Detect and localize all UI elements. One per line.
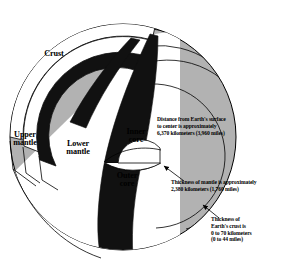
annotation-crust-thickness: Thickness of Earth's crust is 0 to 70 ki… (211, 216, 285, 243)
layer-label-crust: Crust (36, 50, 72, 58)
layer-label-lower-mantle: Lower mantle (60, 140, 96, 157)
earth-interior-diagram: Crust Upper mantle Lower mantle Inner co… (0, 0, 291, 272)
layer-label-upper-mantle: Upper mantle (8, 131, 42, 148)
annotation-earth-radius: Distance from Earth's surface to center … (157, 116, 249, 136)
layer-label-outer-core: Outer core (110, 172, 144, 189)
annotation-mantle-thickness: Thickness of mantle is approximately 2,3… (171, 179, 287, 193)
layer-label-inner-core: Inner core (120, 128, 152, 145)
